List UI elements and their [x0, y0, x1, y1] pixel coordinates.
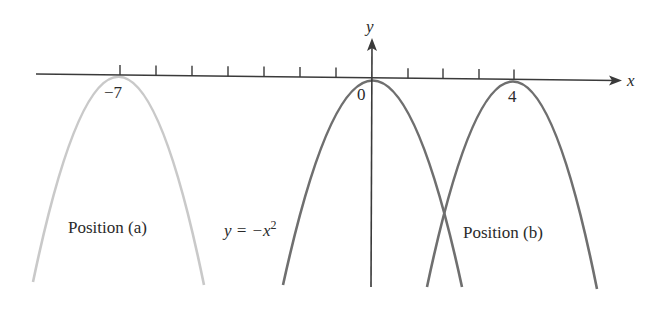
equation-text: y = −x — [222, 221, 271, 240]
x-axis-label: x — [626, 71, 635, 90]
x-axis — [36, 74, 622, 86]
tick-label-0: 0 — [357, 85, 366, 104]
parabola-position-b — [427, 81, 597, 289]
y-axis — [367, 38, 377, 287]
label-position-a: Position (a) — [68, 218, 147, 237]
parabola-position-a — [33, 77, 204, 285]
y-axis-label: y — [364, 17, 374, 36]
equation-exponent: 2 — [271, 218, 277, 232]
parabola-translation-diagram: y x −7 0 4 Position (a) y = −x2 Position… — [0, 0, 659, 312]
tick-label-neg7: −7 — [104, 83, 123, 102]
tick-label-4: 4 — [508, 87, 517, 106]
label-position-b: Position (b) — [463, 223, 543, 242]
label-equation: y = −x2 — [222, 218, 277, 240]
